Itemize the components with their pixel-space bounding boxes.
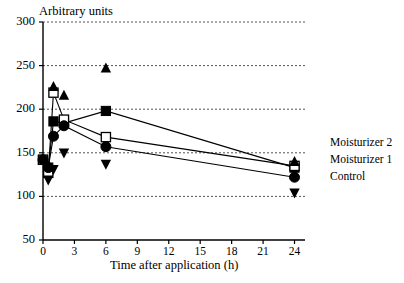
- x-axis-tick-label: 24: [275, 245, 315, 257]
- marker-control: [48, 131, 58, 141]
- series-line-control: [43, 126, 295, 177]
- marker-control: [101, 142, 111, 152]
- chart-figure: Arbitrary units Time after application (…: [0, 0, 404, 283]
- series-line-moisturizer-1: [43, 93, 295, 173]
- y-axis-tick-label: 100: [0, 188, 35, 203]
- marker-moisturizer-2: [49, 117, 58, 126]
- marker-moisturizer-2: [101, 106, 110, 115]
- y-axis-tick-label: 150: [0, 145, 35, 160]
- legend-item-moisturizer-2: Moisturizer 2: [330, 136, 392, 148]
- marker-upper-error-bound: [48, 81, 58, 91]
- series-line-moisturizer-2: [43, 111, 295, 168]
- y-axis-tick-label: 200: [0, 101, 35, 116]
- legend-item-moisturizer-1: Moisturizer 1: [330, 153, 392, 165]
- marker-upper-error-bound: [101, 63, 111, 73]
- x-axis-title: Time after application (h): [110, 258, 238, 273]
- marker-control: [59, 121, 69, 131]
- y-axis-tick-label: 300: [0, 14, 35, 29]
- marker-control: [290, 172, 300, 182]
- marker-lower-error-bound: [59, 148, 69, 158]
- marker-lower-error-bound: [101, 160, 111, 170]
- marker-upper-error-bound: [59, 90, 69, 100]
- marker-lower-error-bound: [43, 175, 53, 185]
- legend-item-control: Control: [330, 170, 365, 182]
- marker-lower-error-bound: [289, 189, 299, 199]
- y-axis-title: Arbitrary units: [39, 4, 113, 19]
- marker-moisturizer-1: [101, 133, 110, 142]
- y-axis-tick-label: 250: [0, 58, 35, 73]
